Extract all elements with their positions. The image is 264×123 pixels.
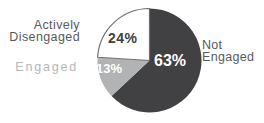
pct-label-actively-disengaged: 24%: [108, 30, 138, 46]
engagement-pie-chart: Actively Disengaged Engaged 63% 13% 24% …: [0, 0, 264, 123]
label-not-engaged-line2: Engaged: [202, 51, 254, 63]
pct-label-not-engaged: 63%: [154, 52, 186, 69]
label-engaged: Engaged: [15, 61, 78, 74]
pct-label-engaged: 13%: [96, 61, 122, 76]
label-actively-disengaged: Actively Disengaged: [9, 20, 80, 43]
label-actively-disengaged-line2: Disengaged: [9, 32, 80, 44]
label-not-engaged: Not Engaged: [202, 39, 254, 63]
pie-graphic: 63% 13% 24%: [96, 7, 203, 114]
